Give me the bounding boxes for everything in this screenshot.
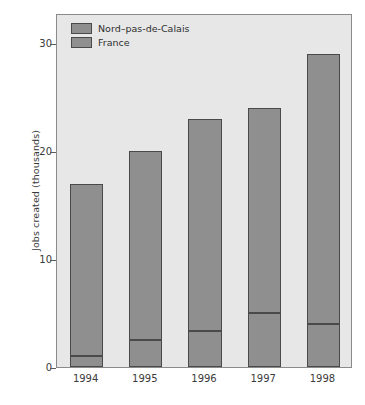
legend-swatch-icon xyxy=(71,37,92,48)
bar-segment-nord-pas-de-calais[interactable] xyxy=(129,151,162,340)
legend-item-label: Nord–pas-de-Calais xyxy=(98,23,189,34)
y-axis-tick-mark xyxy=(50,368,56,369)
x-axis-tick-label: 1996 xyxy=(174,372,234,386)
bar-group[interactable] xyxy=(188,13,221,367)
plot-area: Nord–pas-de-Calais France xyxy=(56,14,352,368)
bar-segment-france[interactable] xyxy=(70,356,103,367)
legend-swatch-icon xyxy=(71,23,92,34)
bar-group[interactable] xyxy=(307,13,340,367)
legend-item-label: France xyxy=(98,37,130,48)
bar-segment-nord-pas-de-calais[interactable] xyxy=(307,54,340,324)
chart-figure: Jobs created (thousands) 3020100 Nord–pa… xyxy=(0,0,365,405)
x-axis-ticks: 19941995199619971998 xyxy=(56,372,352,392)
legend-item-france: France xyxy=(71,37,189,48)
x-axis-tick-label: 1997 xyxy=(233,372,293,386)
bar-segment-nord-pas-de-calais[interactable] xyxy=(188,119,221,332)
x-axis-tick-label: 1995 xyxy=(115,372,175,386)
bar-segment-france[interactable] xyxy=(188,331,221,367)
bar-group[interactable] xyxy=(129,13,162,367)
bar-group[interactable] xyxy=(70,13,103,367)
bar-segment-nord-pas-de-calais[interactable] xyxy=(70,184,103,357)
bar-segment-france[interactable] xyxy=(307,324,340,367)
bar-group[interactable] xyxy=(248,13,281,367)
legend-item-nord-pas-de-calais: Nord–pas-de-Calais xyxy=(71,23,189,34)
bars-layer xyxy=(57,15,351,367)
chart-legend: Nord–pas-de-Calais France xyxy=(71,23,189,48)
x-axis-tick-label: 1994 xyxy=(56,372,116,386)
bar-segment-france[interactable] xyxy=(248,313,281,367)
bar-segment-france[interactable] xyxy=(129,340,162,367)
bar-segment-nord-pas-de-calais[interactable] xyxy=(248,108,281,313)
x-axis-tick-label: 1998 xyxy=(292,372,352,386)
